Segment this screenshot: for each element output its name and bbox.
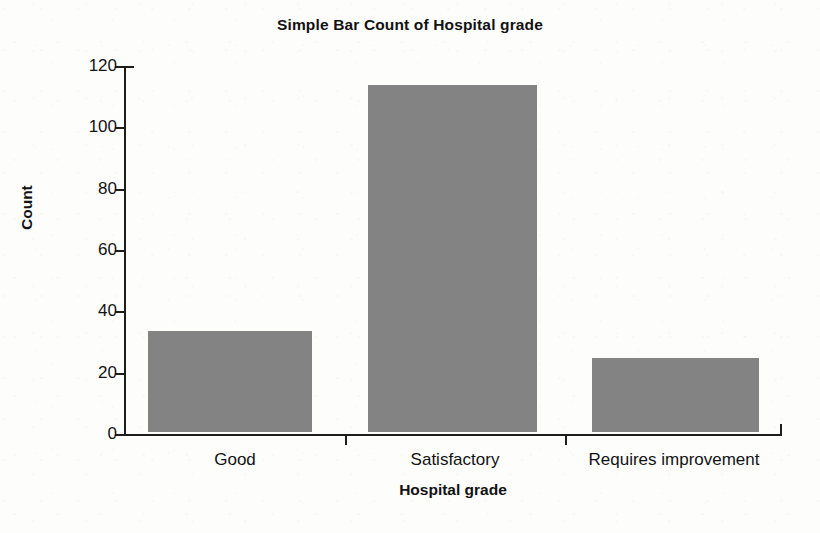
y-tick-label: 80 — [98, 179, 117, 199]
y-axis-line — [124, 66, 126, 435]
x-axis-end-cap — [780, 424, 782, 436]
x-axis-title: Hospital grade — [124, 481, 782, 499]
x-axis-line — [124, 434, 782, 436]
y-axis-top-cap — [124, 66, 134, 68]
y-axis-title: Count — [18, 185, 36, 230]
x-tick-label-good: Good — [214, 450, 256, 470]
y-tick-label: 40 — [98, 301, 117, 321]
bar-requires-improvement — [592, 358, 759, 432]
bar-satisfactory — [368, 85, 537, 432]
chart-title: Simple Bar Count of Hospital grade — [0, 16, 820, 34]
y-tick-label: 60 — [98, 240, 117, 260]
x-tick-label-requires-improvement: Requires improvement — [588, 450, 759, 470]
plot-area: 020406080100120 GoodSatisfactoryRequires… — [124, 66, 782, 434]
bar-chart-figure: Simple Bar Count of Hospital grade 02040… — [0, 0, 820, 533]
bar-good — [148, 331, 312, 432]
y-tick-label: 0 — [108, 424, 117, 444]
y-tick-label: 120 — [89, 56, 117, 76]
x-tick-mark — [565, 434, 567, 445]
x-tick-mark — [345, 434, 347, 445]
x-tick-label-satisfactory: Satisfactory — [411, 450, 500, 470]
y-tick-label: 20 — [98, 363, 117, 383]
y-tick-label: 100 — [89, 117, 117, 137]
